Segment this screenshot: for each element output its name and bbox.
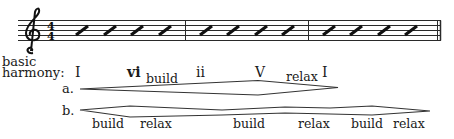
row-b-word-relax-2: relax — [298, 117, 330, 130]
row-b-word-build-1: build — [92, 117, 124, 130]
row-b-label: b. — [62, 104, 74, 117]
row-a-contour — [80, 81, 338, 96]
row-b-word-build-2: build — [233, 117, 265, 130]
row-b-word-relax-1: relax — [140, 117, 172, 130]
row-b-word-relax-3: relax — [393, 117, 425, 130]
row-b-word-build-3: build — [351, 117, 383, 130]
tension-contours — [0, 0, 454, 139]
